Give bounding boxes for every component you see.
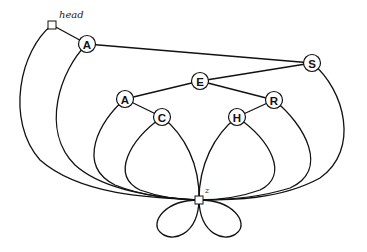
sentinel-z: z bbox=[195, 186, 210, 204]
z-label: z bbox=[204, 186, 210, 195]
node-label: C bbox=[158, 112, 166, 124]
edge-s-e bbox=[200, 63, 312, 81]
edges-to-sentinel bbox=[20, 25, 344, 237]
node-a2: A bbox=[117, 91, 134, 108]
edge-a1-s bbox=[87, 44, 312, 63]
edge-e-a2 bbox=[125, 81, 200, 99]
node-label: A bbox=[121, 94, 129, 106]
node-h: H bbox=[229, 109, 246, 126]
node-label: H bbox=[233, 112, 241, 124]
tree-diagram: head z A S E A R C H bbox=[0, 0, 367, 252]
head-square bbox=[48, 21, 56, 29]
node-c: C bbox=[154, 109, 171, 126]
edge-a1-z bbox=[56, 44, 199, 200]
edge-h-z-right bbox=[199, 117, 275, 200]
node-e: E bbox=[192, 73, 209, 90]
edge-c-z-right bbox=[162, 117, 199, 200]
node-label: R bbox=[270, 95, 279, 107]
edge-e-r bbox=[200, 81, 274, 100]
z-square bbox=[195, 196, 203, 204]
edge-r-z bbox=[199, 100, 311, 200]
node-r: R bbox=[266, 92, 283, 109]
self-loop-right bbox=[199, 200, 241, 237]
sentinel-head: head bbox=[48, 9, 84, 29]
node-label: S bbox=[308, 58, 316, 70]
edge-c-z-left bbox=[125, 117, 199, 200]
head-label: head bbox=[59, 9, 84, 20]
node-label: E bbox=[196, 76, 204, 88]
self-loop-left bbox=[157, 200, 199, 237]
node-label: A bbox=[83, 39, 91, 51]
node-s: S bbox=[304, 55, 321, 72]
node-a1: A bbox=[79, 36, 96, 53]
